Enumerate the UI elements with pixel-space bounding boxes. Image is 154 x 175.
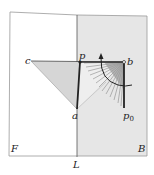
label-b: b: [127, 56, 133, 67]
triangle-cpa: [31, 61, 80, 109]
label-p0-subscript: 0: [129, 115, 133, 123]
label-b-region: B: [137, 143, 145, 154]
label-l: L: [72, 159, 80, 170]
diagram-canvas: c p b a p0 F B L: [0, 0, 154, 175]
label-a: a: [72, 110, 78, 121]
point-b: [123, 61, 126, 64]
label-c: c: [25, 55, 31, 66]
label-p: p: [79, 50, 86, 61]
label-f: F: [10, 143, 19, 154]
